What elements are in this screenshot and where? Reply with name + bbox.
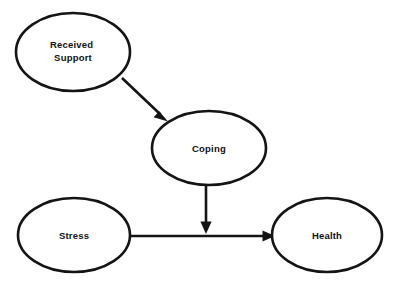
- edge-support-to-coping-line: [122, 78, 161, 115]
- node-coping-label: Coping: [192, 143, 226, 154]
- node-health-label-line1: Health: [312, 230, 342, 241]
- node-received-support-label: Received Support: [50, 39, 96, 63]
- node-stress-label-line1: Stress: [59, 230, 89, 241]
- path-diagram: Received Support Coping Stress Health: [0, 0, 395, 288]
- edge-coping-to-path-arrowhead: [200, 222, 211, 235]
- node-stress-label: Stress: [59, 230, 89, 241]
- node-stress[interactable]: Stress: [18, 198, 130, 272]
- node-received-support[interactable]: Received Support: [16, 13, 130, 91]
- node-received-support-label-line1: Received: [50, 39, 93, 50]
- edge-support-to-coping: [122, 78, 168, 122]
- node-coping[interactable]: Coping: [152, 111, 266, 185]
- edge-stress-to-health: [130, 230, 275, 241]
- node-coping-label-line1: Coping: [192, 143, 226, 154]
- edge-support-to-coping-arrowhead: [154, 111, 168, 121]
- node-received-support-label-line2: Support: [54, 52, 92, 63]
- node-health[interactable]: Health: [272, 198, 382, 272]
- node-health-label: Health: [312, 230, 342, 241]
- diagram-canvas: Received Support Coping Stress Health: [0, 0, 395, 288]
- edge-coping-to-path: [200, 186, 211, 234]
